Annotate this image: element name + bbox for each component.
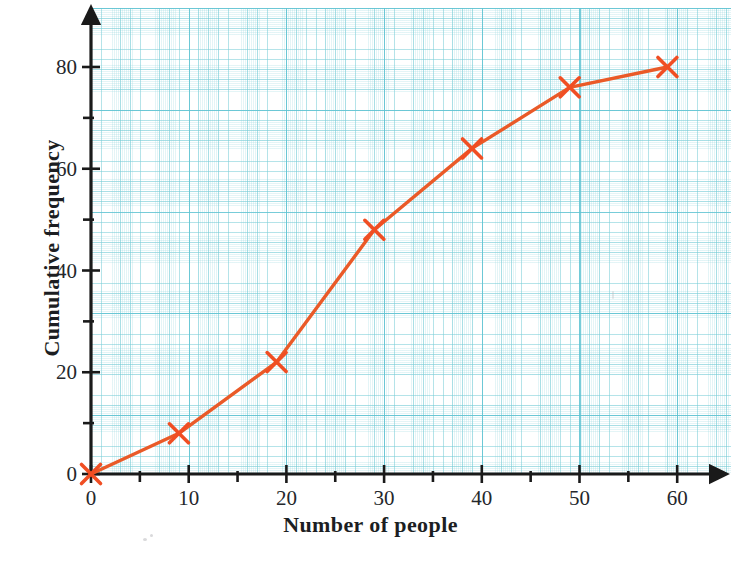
x-axis-title: Number of people	[0, 512, 741, 538]
data-point-marker	[169, 424, 188, 443]
x-tick-label: 0	[86, 486, 97, 511]
x-tick-label: 30	[374, 486, 395, 511]
x-tick-label: 60	[667, 486, 688, 511]
x-tick-label: 20	[276, 486, 297, 511]
scan-speck	[612, 291, 614, 299]
data-point-markers	[82, 58, 677, 484]
y-tick-label: 0	[67, 462, 78, 487]
scan-speck	[150, 534, 153, 537]
y-tick-label: 80	[56, 55, 77, 80]
cumulative-frequency-line	[91, 67, 667, 474]
x-tick-label: 50	[569, 486, 590, 511]
y-axis-title: Cumulative frequency	[39, 103, 65, 393]
data-point-marker	[267, 353, 286, 372]
scan-speck	[143, 538, 147, 541]
data-point-marker	[463, 139, 482, 158]
cumulative-frequency-chart: 0102030405060 020406080 Number of people…	[0, 0, 741, 570]
x-tick-label: 10	[178, 486, 199, 511]
x-tick-label: 40	[471, 486, 492, 511]
plot-area	[0, 0, 741, 570]
data-point-marker	[365, 220, 384, 239]
